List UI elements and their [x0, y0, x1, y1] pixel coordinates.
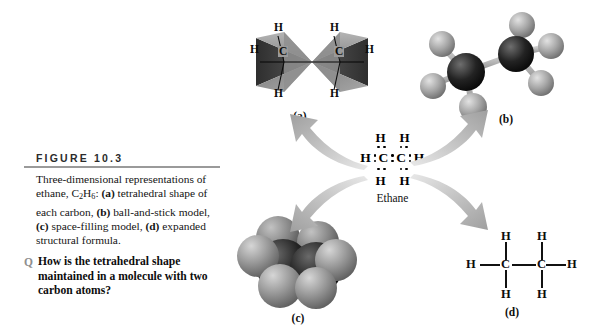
question-text: How is the tetrahedral shape maintained …: [38, 255, 213, 298]
tetrahedra-atom-labels: H H H H H H C C: [252, 18, 370, 106]
panel-label-c: (c): [283, 312, 313, 324]
sf-atom-carbon-right: C: [537, 258, 546, 270]
caption-text: Three-dimensional representations of eth…: [24, 172, 224, 247]
figure-caption-block: FIGURE 10.3 Three-dimensional representa…: [24, 152, 224, 299]
tet-label-h-top-right: H: [330, 22, 339, 33]
tet-label-h-top-left: H: [274, 22, 283, 33]
sf-atom-h-top-left: H: [501, 230, 511, 242]
caption-label-b: (b): [96, 206, 110, 218]
lewis-dot-pair-bond-center: [391, 154, 393, 162]
sf-atom-h-right: H: [567, 258, 577, 270]
lewis-dot-pair-bond-left: [374, 154, 376, 162]
tet-label-carbon-right: C: [334, 46, 344, 57]
tet-label-h-left: H: [250, 44, 259, 55]
question-marker: Q: [24, 255, 33, 269]
tet-label-h-bottom-left: H: [274, 88, 283, 99]
lewis-h-top-left: H: [375, 131, 385, 144]
sf-bond-right: [546, 264, 566, 266]
arrow-to-panel-a: [288, 112, 374, 170]
sf-atom-h-top-right: H: [537, 230, 547, 242]
sf-atom-carbon-left: C: [501, 258, 510, 270]
caption-segment-5: ball-and-stick model,: [110, 206, 210, 218]
panel-label-d: (d): [497, 306, 527, 318]
caption-label-a: (a): [101, 187, 114, 199]
figure-canvas: FIGURE 10.3 Three-dimensional representa…: [0, 0, 597, 335]
tet-label-h-right: H: [365, 44, 374, 55]
sf-bond-left: [480, 264, 500, 266]
caption-label-c: (c): [36, 220, 49, 232]
lewis-dot-pair-bottom-right: [400, 168, 408, 170]
sf-atom-h-bottom-left: H: [501, 288, 511, 300]
sf-bond-bottom-left: [505, 270, 507, 288]
structural-formula-diagram: H H C C H H H H: [466, 232, 576, 298]
lewis-carbon-left: C: [379, 150, 389, 166]
panel-label-b: (b): [491, 113, 521, 125]
caption-divider: [24, 166, 220, 168]
sf-bond-bottom-right: [541, 270, 543, 288]
sf-atom-h-bottom-right: H: [537, 288, 547, 300]
lewis-h-bottom-left: H: [375, 174, 385, 187]
tet-label-carbon-left: C: [278, 46, 288, 57]
tet-label-h-bottom-right: H: [330, 88, 339, 99]
sf-atom-h-left: H: [466, 258, 476, 270]
figure-number-heading: FIGURE 10.3: [24, 152, 224, 164]
lewis-dot-pair-bottom-left: [377, 168, 385, 170]
arrow-to-panel-b: [404, 108, 492, 166]
lewis-dot-pair-top-left: [377, 146, 385, 148]
caption-segment-6: space-filling model,: [49, 220, 146, 232]
arrow-to-panel-c: [288, 176, 374, 234]
figure-question: Q How is the tetrahedral shape maintaine…: [24, 255, 224, 298]
sf-bond-c-c: [512, 264, 536, 266]
caption-label-d: (d): [145, 220, 159, 232]
arrow-to-panel-d: [404, 174, 492, 234]
